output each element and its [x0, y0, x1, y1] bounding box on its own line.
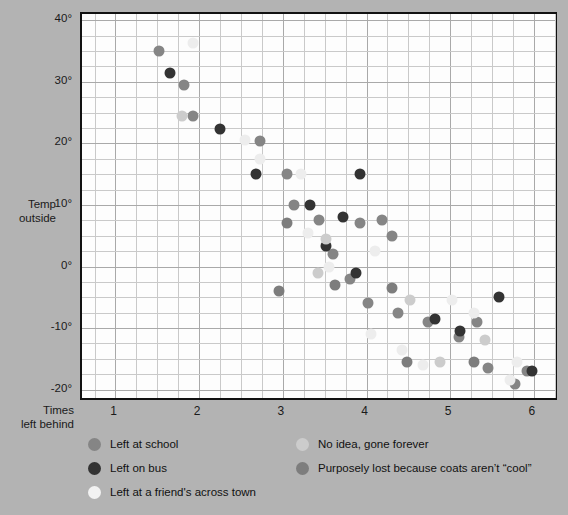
- data-point: [418, 360, 429, 371]
- legend-swatch-icon: [88, 438, 101, 451]
- x-axis-tick-label: 6: [529, 404, 536, 418]
- data-point: [446, 295, 457, 306]
- data-point: [313, 215, 324, 226]
- legend-swatch-icon: [88, 462, 101, 475]
- data-point: [215, 124, 226, 135]
- data-point: [430, 313, 441, 324]
- legend-column-left: Left at schoolLeft on busLeft at a frien…: [88, 432, 256, 504]
- data-point: [153, 45, 164, 56]
- plot-area: [80, 12, 557, 400]
- data-point: [455, 326, 466, 337]
- legend-item[interactable]: Left at school: [88, 432, 256, 456]
- legend-swatch-icon: [88, 486, 101, 499]
- y-axis-tick-label: -20°: [51, 382, 72, 394]
- data-point: [480, 335, 491, 346]
- data-point: [386, 283, 397, 294]
- data-point: [251, 169, 262, 180]
- data-point: [365, 329, 376, 340]
- legend-swatch-icon: [296, 462, 309, 475]
- data-point: [240, 135, 251, 146]
- data-points-layer: [82, 14, 555, 398]
- data-point: [386, 230, 397, 241]
- data-point: [396, 344, 407, 355]
- x-axis-tick-label: 3: [277, 404, 284, 418]
- data-point: [338, 212, 349, 223]
- data-point: [282, 218, 293, 229]
- data-point: [363, 298, 374, 309]
- y-axis-tick-label: -10°: [51, 320, 72, 332]
- data-point: [273, 286, 284, 297]
- data-point: [393, 307, 404, 318]
- data-point: [282, 169, 293, 180]
- x-axis-tick-label: 2: [194, 404, 201, 418]
- data-point: [482, 363, 493, 374]
- x-axis-tick-label: 4: [361, 404, 368, 418]
- data-point: [188, 110, 199, 121]
- data-point: [321, 233, 332, 244]
- data-point: [354, 218, 365, 229]
- data-point: [255, 136, 266, 147]
- data-point: [179, 79, 190, 90]
- y-axis-tick-label: 0°: [61, 259, 72, 271]
- data-point: [435, 356, 446, 367]
- data-point: [305, 199, 316, 210]
- legend-item-label: No idea, gone forever: [318, 438, 429, 451]
- data-point: [468, 356, 479, 367]
- data-point: [288, 199, 299, 210]
- data-point: [177, 110, 188, 121]
- data-point: [354, 169, 365, 180]
- data-point: [527, 366, 538, 377]
- y-axis-tick-label: 40°: [55, 12, 72, 24]
- data-point: [376, 215, 387, 226]
- data-point: [468, 307, 479, 318]
- x-axis-tick-labels: 123456: [0, 404, 568, 426]
- legend: Left at schoolLeft on busLeft at a frien…: [0, 432, 568, 512]
- y-axis-tick-label: 20°: [55, 135, 72, 147]
- data-point: [296, 169, 307, 180]
- legend-item-label: Purposely lost because coats aren’t “coo…: [318, 462, 532, 475]
- legend-item-label: Left at school: [110, 438, 178, 451]
- data-point: [302, 227, 313, 238]
- data-point: [493, 292, 504, 303]
- legend-item[interactable]: Purposely lost because coats aren’t “coo…: [296, 456, 532, 480]
- data-point: [312, 267, 323, 278]
- legend-column-right: No idea, gone foreverPurposely lost beca…: [296, 432, 532, 480]
- x-axis-tick-label: 1: [110, 404, 117, 418]
- data-point: [323, 261, 334, 272]
- data-point: [188, 37, 199, 48]
- legend-item[interactable]: Left on bus: [88, 456, 256, 480]
- data-point: [164, 67, 175, 78]
- data-point: [512, 356, 523, 367]
- data-point: [255, 153, 266, 164]
- scatter-chart-figure: Temp outside 40°30°20°10°0°-10°-20° Time…: [0, 0, 568, 515]
- data-point: [369, 246, 380, 257]
- data-point: [351, 267, 362, 278]
- y-axis-tick-label: 30°: [55, 74, 72, 86]
- x-axis-tick-label: 5: [445, 404, 452, 418]
- legend-swatch-icon: [296, 438, 309, 451]
- y-axis-tick-label: 10°: [55, 197, 72, 209]
- legend-item[interactable]: No idea, gone forever: [296, 432, 532, 456]
- data-point: [505, 375, 516, 386]
- legend-item-label: Left on bus: [110, 462, 167, 475]
- data-point: [329, 279, 340, 290]
- data-point: [401, 356, 412, 367]
- legend-item[interactable]: Left at a friend's across town: [88, 480, 256, 504]
- legend-item-label: Left at a friend's across town: [110, 486, 256, 499]
- data-point: [405, 295, 416, 306]
